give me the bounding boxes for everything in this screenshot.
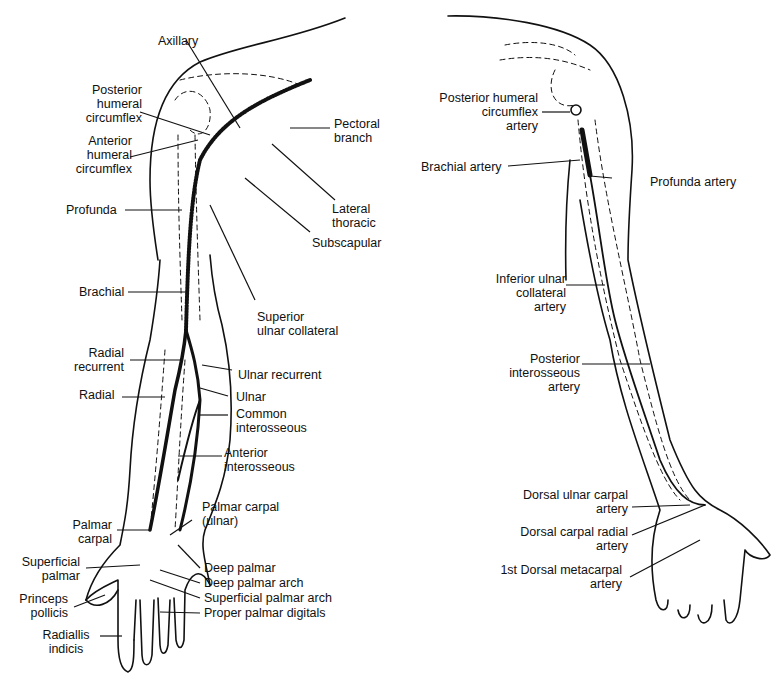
label-posterior-interosseous-artery: Posterior interosseous artery bbox=[490, 352, 580, 394]
label-proper-palmar-digitals: Proper palmar digitals bbox=[204, 606, 326, 620]
label-palmar-carpal: Palmar carpal bbox=[40, 518, 112, 546]
label-subscapular: Subscapular bbox=[312, 236, 382, 250]
label-radial-recurrent: Radial recurrent bbox=[48, 346, 124, 374]
label-superficial-palmar-arch: Superficial palmar arch bbox=[204, 591, 332, 605]
label-superficial-palmar: Superficial palmar bbox=[4, 555, 80, 583]
label-deep-palmar-arch: Deep palmar arch bbox=[204, 576, 303, 590]
label-posterior-humeral-circumflex-artery: Posterior humeral circumflex artery bbox=[420, 91, 538, 133]
left-shoulder-outline bbox=[150, 18, 345, 260]
label-deep-palmar: Deep palmar bbox=[204, 561, 276, 575]
label-profunda-artery: Profunda artery bbox=[650, 175, 736, 189]
label-radiallis-indicis: Radiallis indicis bbox=[36, 628, 96, 656]
label-anterior-humeral-circumflex: Anterior humeral circumflex bbox=[52, 134, 132, 176]
label-palmar-carpal-ulnar: Palmar carpal (ulnar) bbox=[202, 500, 279, 528]
label-lateral-thoracic: Lateral thoracic bbox=[332, 202, 376, 230]
label-common-interosseous: Common interosseous bbox=[236, 407, 307, 435]
label-superior-ulnar-collateral: Superior ulnar collateral bbox=[257, 310, 338, 338]
label-radial: Radial bbox=[79, 388, 114, 402]
label-princeps-pollicis: Princeps pollicis bbox=[0, 592, 68, 620]
label-dorsal-carpal-radial-artery: Dorsal carpal radial artery bbox=[500, 525, 628, 553]
label-posterior-humeral-circumflex: Posterior humeral circumflex bbox=[62, 83, 142, 125]
label-pectoral-branch: Pectoral branch bbox=[334, 117, 380, 145]
label-ulnar-recurrent: Ulnar recurrent bbox=[238, 368, 321, 382]
label-ulnar: Ulnar bbox=[236, 390, 266, 404]
label-first-dorsal-metacarpal-artery: 1st Dorsal metacarpal artery bbox=[480, 563, 622, 591]
label-axillary: Axillary bbox=[158, 34, 198, 48]
label-anterior-interosseous: Anterior interosseous bbox=[224, 446, 295, 474]
label-brachial: Brachial bbox=[79, 285, 124, 299]
label-profunda: Profunda bbox=[66, 203, 117, 217]
label-brachial-artery: Brachial artery bbox=[421, 160, 502, 174]
label-inferior-ulnar-collateral-artery: Inferior ulnar collateral artery bbox=[470, 272, 566, 314]
arm-arteries-diagram: Axillary Posterior humeral circumflex An… bbox=[0, 0, 778, 688]
label-dorsal-ulnar-carpal-artery: Dorsal ulnar carpal artery bbox=[500, 488, 628, 516]
